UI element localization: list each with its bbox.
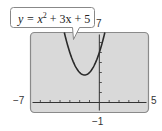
xmin-label: −7: [13, 95, 25, 106]
ymax-label: 7: [96, 18, 102, 29]
ymin-label: −1: [92, 116, 104, 127]
graphing-calculator-chart: y = x2 + 3x + 5 7 −7 5 −1: [0, 0, 162, 131]
xmax-label: 5: [151, 95, 157, 106]
equation-label: y = x2 + 3x + 5: [17, 11, 90, 26]
